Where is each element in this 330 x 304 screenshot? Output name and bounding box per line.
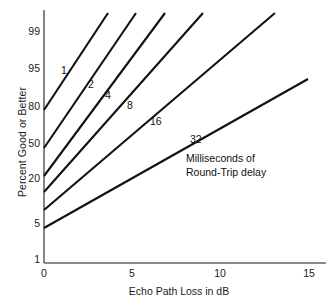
series-line-16 bbox=[44, 13, 275, 210]
annotation-line-2: Round-Trip delay bbox=[186, 166, 266, 179]
chart-figure: Percent Good or Better 99 95 80 50 20 5 … bbox=[0, 0, 330, 304]
series-label-1: 1 bbox=[61, 64, 67, 76]
series-line-32 bbox=[44, 79, 308, 228]
series-line-1 bbox=[44, 13, 108, 110]
series-label-16: 16 bbox=[150, 115, 162, 127]
series-label-2: 2 bbox=[88, 78, 94, 90]
series-line-8 bbox=[44, 13, 203, 192]
series-label-4: 4 bbox=[105, 89, 111, 101]
annotation-line-1: Milliseconds of bbox=[186, 152, 255, 165]
chart-plot-area bbox=[0, 0, 330, 304]
series-label-8: 8 bbox=[127, 99, 133, 111]
series-label-32: 32 bbox=[190, 133, 202, 145]
